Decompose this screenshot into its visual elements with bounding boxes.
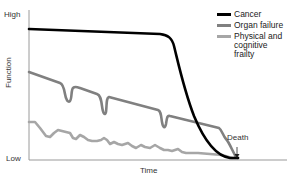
legend-label: Organ failure bbox=[234, 21, 283, 30]
legend-label: Physical and cognitive bbox=[234, 32, 287, 50]
x-axis-title: Time bbox=[140, 167, 157, 175]
y-axis-title: Function bbox=[4, 57, 13, 88]
trajectory-chart: High Low Function Time Death Cancer Orga… bbox=[0, 0, 287, 181]
series-cancer-line bbox=[29, 29, 238, 158]
series-organ-failure-line bbox=[29, 72, 238, 158]
y-tick-low: Low bbox=[6, 155, 21, 163]
legend-swatch-cancer bbox=[217, 13, 231, 16]
legend-swatch-organ-failure bbox=[217, 24, 231, 27]
legend-item-frailty: Physical and cognitive frailty bbox=[217, 32, 287, 59]
legend-label: Cancer bbox=[234, 10, 261, 19]
y-tick-high: High bbox=[4, 11, 20, 19]
legend-label-line2: frailty bbox=[234, 50, 287, 59]
legend: Cancer Organ failure Physical and cognit… bbox=[217, 10, 287, 59]
legend-swatch-frailty bbox=[217, 35, 231, 38]
death-annotation: Death bbox=[227, 134, 248, 142]
